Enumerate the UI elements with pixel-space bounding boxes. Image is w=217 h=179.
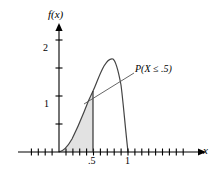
plot-canvas (0, 0, 217, 179)
probability-density-figure: 2 1 .5 1 f(x) x P(X ≤ .5) (0, 0, 217, 179)
x-tick-label-half: .5 (88, 156, 96, 166)
y-axis-label: f(x) (48, 9, 63, 20)
y-axis-arrow (55, 23, 62, 31)
x-axis-label: x (203, 145, 208, 156)
shaded-region (59, 91, 93, 152)
x-tick-label-1: 1 (125, 156, 130, 166)
probability-annotation: P(X ≤ .5) (135, 64, 172, 74)
y-tick-label-1: 1 (44, 99, 49, 109)
y-tick-label-2: 2 (43, 43, 48, 53)
annotation-leader-line (84, 73, 134, 104)
